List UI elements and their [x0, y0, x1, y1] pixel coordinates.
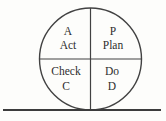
quadrant-plan-letter: P — [110, 25, 116, 37]
diagram-canvas: A Act P Plan Check C Do D — [0, 0, 166, 121]
quadrant-act-letter: A — [64, 25, 73, 37]
quadrant-check-word: Check — [51, 65, 81, 77]
quadrant-check-letter: C — [62, 80, 70, 92]
pdca-wheel-diagram: A Act P Plan Check C Do D — [0, 0, 166, 121]
quadrant-do-letter: D — [108, 80, 116, 92]
quadrant-do-word: Do — [105, 65, 119, 77]
quadrant-plan-word: Plan — [103, 39, 124, 51]
quadrant-act-word: Act — [60, 39, 77, 51]
